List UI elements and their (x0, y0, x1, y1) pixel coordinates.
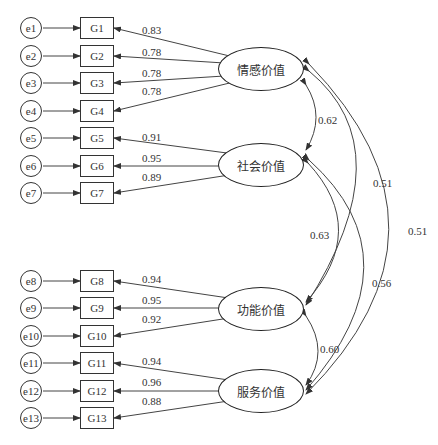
loading-value: 0.96 (142, 376, 161, 388)
indicator-box: G2 (80, 45, 114, 67)
indicator-box: G11 (80, 352, 114, 374)
latent-label: 功能价值 (237, 301, 285, 318)
latent-label: 服务价值 (237, 383, 285, 400)
indicator-box: G3 (80, 72, 114, 94)
error-node: e11 (20, 352, 42, 374)
error-label: e11 (23, 357, 38, 369)
indicator-label: G11 (88, 357, 107, 369)
loading-value: 0.95 (142, 294, 161, 306)
error-label: e6 (26, 160, 36, 172)
error-label: e7 (26, 187, 36, 199)
indicator-box: G9 (80, 297, 114, 319)
error-node: e3 (20, 72, 42, 94)
correlation-curve-functional-service (306, 316, 318, 385)
loading-value: 0.94 (142, 273, 161, 285)
correlation-curve-emotional-functional (306, 71, 356, 305)
loading-value: 0.94 (142, 355, 161, 367)
correlation-value-emotional-functional: 0.51 (373, 177, 392, 189)
loading-arrow (114, 138, 242, 155)
error-label: e5 (26, 132, 36, 144)
indicator-box: G7 (80, 182, 114, 204)
loading-value: 0.89 (142, 171, 161, 183)
error-node: e9 (20, 297, 42, 319)
error-node: e13 (20, 407, 42, 429)
indicator-box: G8 (80, 270, 114, 292)
indicator-box: G1 (80, 17, 114, 39)
loading-value: 0.91 (142, 131, 161, 143)
latent-service-value: 服务价值 (218, 369, 304, 413)
loading-value: 0.78 (142, 85, 161, 97)
indicator-label: G8 (90, 275, 103, 287)
error-label: e13 (23, 412, 39, 424)
latent-social-value: 社会价值 (218, 143, 304, 187)
latent-functional-value: 功能价值 (218, 287, 304, 331)
indicator-label: G12 (88, 385, 107, 397)
loading-value: 0.83 (142, 24, 161, 36)
loading-value: 0.78 (142, 67, 161, 79)
error-node: e5 (20, 127, 42, 149)
indicator-box: G12 (80, 380, 114, 402)
error-node: e10 (20, 325, 42, 347)
loading-value: 0.88 (142, 395, 161, 407)
correlation-curve-social-service (306, 160, 364, 390)
latent-label: 情感价值 (237, 61, 285, 78)
error-node: e8 (20, 270, 42, 292)
indicator-box: G13 (80, 407, 114, 429)
indicator-box: G4 (80, 100, 114, 122)
error-node: e12 (20, 380, 42, 402)
error-node: e4 (20, 100, 42, 122)
indicator-label: G6 (90, 160, 103, 172)
loading-value: 0.92 (142, 313, 161, 325)
error-label: e1 (26, 22, 36, 34)
indicator-box: G10 (80, 325, 114, 347)
error-node: e6 (20, 155, 42, 177)
correlation-value-social-functional: 0.63 (310, 229, 329, 241)
indicator-label: G4 (90, 105, 103, 117)
correlation-curve-emotional-social (306, 85, 316, 150)
correlation-value-emotional-service: 0.51 (408, 225, 427, 237)
correlation-value-functional-service: 0.60 (320, 343, 339, 355)
error-label: e2 (26, 50, 36, 62)
error-node: e7 (20, 182, 42, 204)
indicator-label: G1 (90, 22, 103, 34)
loading-value: 0.95 (142, 152, 161, 164)
error-node: e1 (20, 17, 42, 39)
error-node: e2 (20, 45, 42, 67)
indicator-label: G3 (90, 77, 103, 89)
indicator-label: G5 (90, 132, 103, 144)
error-label: e4 (26, 105, 36, 117)
error-label: e10 (23, 330, 39, 342)
error-label: e12 (23, 385, 39, 397)
loading-arrow (114, 80, 242, 111)
correlation-value-social-service: 0.56 (372, 277, 391, 289)
latent-label: 社会价值 (237, 157, 285, 174)
latent-emotional-value: 情感价值 (218, 47, 304, 91)
indicator-label: G9 (90, 302, 103, 314)
indicator-label: G10 (88, 330, 107, 342)
indicator-label: G2 (90, 50, 103, 62)
error-label: e8 (26, 275, 36, 287)
indicator-label: G7 (90, 187, 103, 199)
error-label: e9 (26, 302, 36, 314)
indicator-box: G5 (80, 127, 114, 149)
correlation-value-emotional-social: 0.62 (318, 114, 337, 126)
indicator-box: G6 (80, 155, 114, 177)
loading-arrow (114, 28, 242, 59)
indicator-label: G13 (88, 412, 107, 424)
sem-diagram: e1 e2 e3 e4 e5 e6 e7 e8 e9 e10 e11 e12 e… (0, 0, 438, 445)
loading-value: 0.78 (142, 46, 161, 58)
error-label: e3 (26, 77, 36, 89)
